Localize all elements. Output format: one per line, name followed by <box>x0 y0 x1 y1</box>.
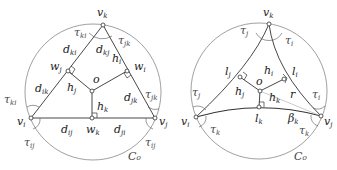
center-o <box>258 89 262 93</box>
vertex-vi <box>194 115 198 119</box>
label-dij: dij <box>61 123 73 137</box>
label-hj: hj <box>235 85 245 99</box>
label-li: li <box>292 65 298 79</box>
height-hk <box>259 91 260 107</box>
angle-arc-vk <box>256 33 282 41</box>
label-r: r <box>290 88 296 101</box>
label-vi: vi <box>181 115 189 129</box>
label-hi: hi <box>112 52 121 66</box>
foot-lj <box>238 75 242 79</box>
label-tau-ij-right: τij <box>145 136 156 150</box>
vertex-vi <box>29 116 33 120</box>
angle-arc-vj-lower <box>146 118 153 129</box>
label-tau-j-left: τj <box>192 86 201 100</box>
label-wi: wi <box>134 60 146 74</box>
label-tau-i-top: τi <box>285 34 293 48</box>
label-lj: lj <box>225 65 232 79</box>
foot-wj <box>66 69 70 73</box>
label-tau-ki-top: τki <box>74 26 87 40</box>
label-tau-i-right: τi <box>312 88 320 102</box>
label-vj: vj <box>324 115 333 129</box>
hyperbolic-side-ki <box>196 24 269 117</box>
label-hj: hj <box>67 81 77 95</box>
label-tau-ki-left: τki <box>4 93 17 107</box>
right-diagram: vk vi vj o lj li lk hi hj hk r βk τj τi … <box>181 6 333 163</box>
angle-arc-vi-lower <box>33 118 40 129</box>
diagram-canvas: vk vi vj o wj wi wk hi hj hk dki dkj dik… <box>0 0 337 170</box>
height-hi <box>260 79 284 91</box>
label-tau-k-right: τk <box>299 124 309 138</box>
label-vk: vk <box>97 6 107 20</box>
label-c0-left: C₀ <box>128 150 141 163</box>
foot-wk <box>90 116 94 120</box>
label-c0-right: C₀ <box>294 150 307 163</box>
label-lk: lk <box>255 112 263 126</box>
label-beta-k: βk <box>287 112 299 126</box>
foot-lk <box>257 105 261 109</box>
label-tau-jk-right: τjk <box>145 88 158 102</box>
vertex-vk <box>101 23 105 27</box>
label-tau-ij-left: τij <box>24 136 35 150</box>
label-dkj: dkj <box>96 43 110 57</box>
angle-arc-vj-lower <box>311 115 318 126</box>
label-o: o <box>93 73 100 86</box>
label-djk: djk <box>124 91 137 105</box>
label-vj: vj <box>159 115 168 129</box>
label-hk: hk <box>269 91 280 105</box>
label-wj: wj <box>50 60 62 74</box>
center-o <box>90 89 94 93</box>
label-vk: vk <box>263 6 273 20</box>
label-dji: dji <box>114 123 125 137</box>
label-dki: dki <box>63 43 77 57</box>
angle-arc-vi-upper <box>27 105 39 107</box>
vertex-vj <box>319 114 323 118</box>
label-hk: hk <box>97 100 108 114</box>
label-o: o <box>256 75 263 88</box>
vertex-vk <box>267 22 271 26</box>
label-tau-j-top: τj <box>240 24 249 38</box>
angle-arc-vj-upper <box>313 106 325 109</box>
label-tau-k-left: τk <box>210 123 220 137</box>
foot-li <box>282 77 286 81</box>
foot-wi <box>125 69 129 73</box>
label-wk: wk <box>86 123 100 137</box>
label-tau-jk-top: τjk <box>118 34 131 48</box>
label-dik: dik <box>35 82 49 96</box>
right-angle-lj <box>243 72 247 80</box>
label-vi: vi <box>17 115 25 129</box>
label-hi: hi <box>264 64 273 78</box>
left-diagram: vk vi vj o wj wi wk hi hj hk dki dkj dik… <box>4 6 168 163</box>
vertex-vj <box>153 116 157 120</box>
